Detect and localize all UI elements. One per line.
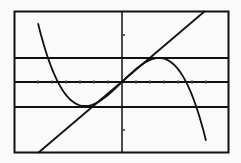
- graph-plot: [0, 0, 241, 163]
- graph-screen: [0, 0, 241, 163]
